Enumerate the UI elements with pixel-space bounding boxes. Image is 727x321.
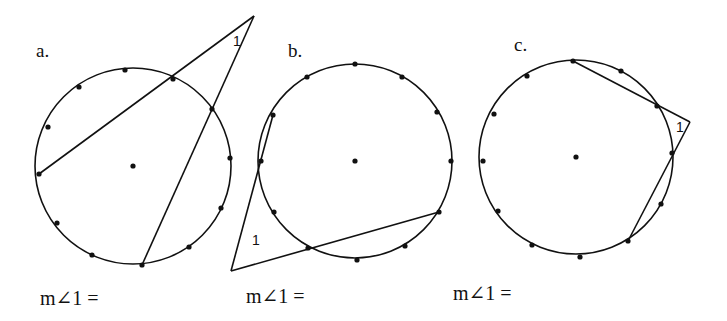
circle-point-b [448,158,453,163]
circle-point-b [352,61,357,66]
center-dot-a [130,163,135,168]
circle-point-a [122,67,127,72]
circle-point-a [89,252,94,257]
circle-point-a [209,106,214,111]
circle-point-b [271,209,276,214]
angle-1-label-c: 1 [676,119,684,135]
geometry-diagram: 111 [0,0,727,321]
circle-point-b [399,74,404,79]
problem-a-answer-prompt: m∠1 = [40,286,99,310]
circle-point-b [436,209,441,214]
secant-a-2 [142,16,254,265]
circle-point-a [186,244,191,249]
circle-point-a [139,262,144,267]
circle-point-c [625,238,630,243]
circle-point-a [54,220,59,225]
circle-point-a [36,171,41,176]
circle-point-a [227,155,232,160]
circle-point-b [402,243,407,248]
center-dot-c [573,154,578,159]
secant-c-1 [573,61,690,122]
circle-point-c [480,158,485,163]
circle-point-c [669,150,674,155]
circle-point-c [491,111,496,116]
problem-a-label: a. [36,40,49,62]
problem-b-label: b. [288,40,302,62]
circle-point-b [258,158,263,163]
angle-1-label-b: 1 [252,232,260,248]
circle-point-c [658,201,663,206]
circle-point-c [524,73,529,78]
circle-point-b [354,257,359,262]
problem-c-answer-prompt: m∠1 = [453,281,512,305]
problem-c-label: c. [514,34,527,56]
circle-point-c [618,68,623,73]
circle-point-a [170,76,175,81]
secant-c-2 [628,122,690,241]
circle-point-b [434,109,439,114]
circle-point-b [304,74,309,79]
angle-1-label-a: 1 [233,33,241,49]
circle-point-a [45,124,50,129]
circle-point-c [654,103,659,108]
circle-point-b [270,112,275,117]
circle-point-c [570,58,575,63]
secant-a-1 [39,16,254,174]
circle-point-c [529,242,534,247]
problem-b-answer-prompt: m∠1 = [246,284,305,308]
center-dot-b [352,158,357,163]
circle-point-b [305,245,310,250]
circle-point-a [218,205,223,210]
circle-point-c [577,254,582,259]
circle-point-c [495,208,500,213]
circle-point-a [76,84,81,89]
